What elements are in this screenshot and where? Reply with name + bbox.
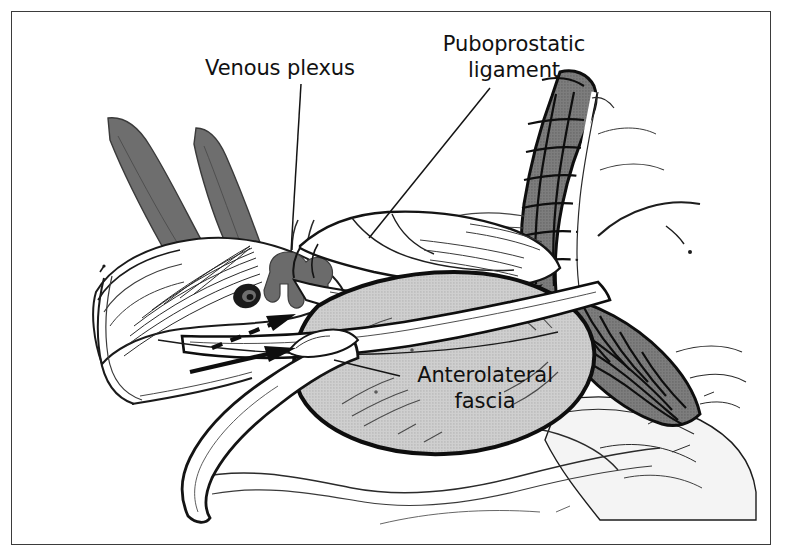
label-anterolateral-fascia: Anterolateralfascia — [405, 362, 565, 414]
label-anterolateral-line1: Anterolateral — [417, 363, 553, 387]
label-puboprostatic-line2: ligament — [468, 58, 560, 82]
label-anterolateral-line2: fascia — [455, 389, 516, 413]
peritoneal-reflection-arc — [598, 202, 700, 254]
anatomical-illustration — [0, 0, 785, 558]
label-puboprostatic-ligament: Puboprostaticligament — [428, 31, 600, 83]
figure-page: Venous plexus Puboprostaticligament Ante… — [0, 0, 785, 558]
label-puboprostatic-line1: Puboprostatic — [443, 32, 586, 56]
label-venous-plexus: Venous plexus — [205, 55, 355, 81]
